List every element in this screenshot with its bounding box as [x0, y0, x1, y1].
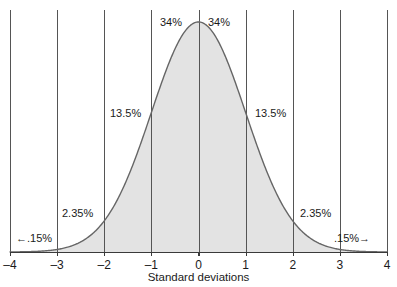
area-label-1-to-2: 13.5% [255, 108, 286, 119]
area-label-minus2-to-minus1: 13.5% [110, 108, 141, 119]
x-axis-tick-label: 2 [289, 259, 296, 271]
x-axis-tick-label: 4 [384, 259, 391, 271]
x-axis-tick-label: –1 [145, 259, 158, 271]
x-axis-tick-label: –3 [50, 259, 63, 271]
x-axis-tick-label: 1 [242, 259, 249, 271]
area-label-minus3-to-minus2: 2.35% [62, 208, 93, 219]
x-axis-tick-label: 3 [337, 259, 344, 271]
normal-distribution-chart: 34% 34% 13.5% 13.5% 2.35% 2.35% ←.15% .1… [0, 0, 397, 287]
area-label-above-3: .15%→ [334, 233, 370, 244]
x-axis-title: Standard deviations [0, 272, 397, 284]
area-label-0-to-1: 34% [208, 17, 230, 28]
area-label-2-to-3: 2.35% [300, 208, 331, 219]
area-label-below-minus3: ←.15% [16, 233, 52, 244]
area-label-minus1-to-0: 34% [160, 17, 182, 28]
x-axis-tick-label: –2 [98, 259, 111, 271]
x-axis-tick-label: 0 [195, 259, 202, 271]
x-axis-tick-label: –4 [3, 259, 16, 271]
